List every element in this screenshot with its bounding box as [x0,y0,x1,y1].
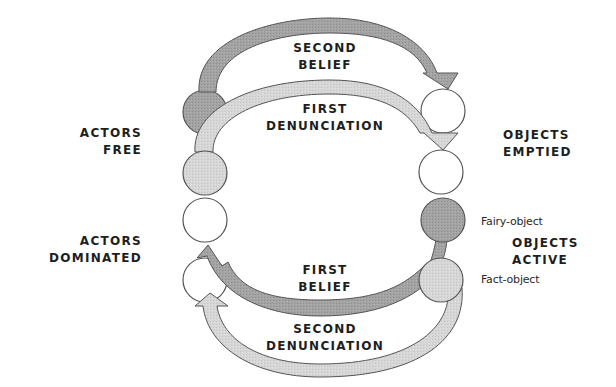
first-belief-label: FIRST BELIEF [270,262,380,296]
first-belief-line1: FIRST [270,262,380,279]
actor-circle-dominated-1 [183,198,227,242]
second-belief-line2: BELIEF [270,57,380,74]
diagram-canvas: SECOND BELIEF FIRST DENUNCIATION FIRST B… [0,0,616,387]
first-denunciation-line2: DENUNCIATION [255,118,395,135]
objects-active-line1: OBJECTS [512,235,612,252]
objects-active-line2: ACTIVE [512,252,612,269]
first-denunciation-line1: FIRST [255,101,395,118]
objects-emptied-line1: OBJECTS [503,127,603,144]
actors-dominated-line1: ACTORS [30,233,142,250]
objects-emptied-line2: EMPTIED [503,144,603,161]
actors-dominated-line2: DOMINATED [30,250,142,267]
object-circle-emptied-2 [419,150,463,194]
second-belief-line1: SECOND [270,40,380,57]
object-circle-fact [419,258,463,302]
second-denunciation-label: SECOND DENUNCIATION [250,321,400,355]
actor-circle-free-light [183,151,227,195]
fairy-object-label: Fairy-object [481,215,543,228]
objects-active-label: OBJECTS ACTIVE [512,235,612,269]
fact-object-label: Fact-object [481,273,539,286]
actors-dominated-label: ACTORS DOMINATED [30,233,142,267]
first-belief-line2: BELIEF [270,279,380,296]
object-circle-fairy [421,198,465,242]
objects-emptied-label: OBJECTS EMPTIED [503,127,603,161]
second-denunciation-line1: SECOND [250,321,400,338]
actors-free-label: ACTORS FREE [40,125,142,159]
first-denunciation-label: FIRST DENUNCIATION [255,101,395,135]
second-denunciation-line2: DENUNCIATION [250,338,400,355]
actors-free-line2: FREE [40,142,142,159]
second-belief-label: SECOND BELIEF [270,40,380,74]
actors-free-line1: ACTORS [40,125,142,142]
